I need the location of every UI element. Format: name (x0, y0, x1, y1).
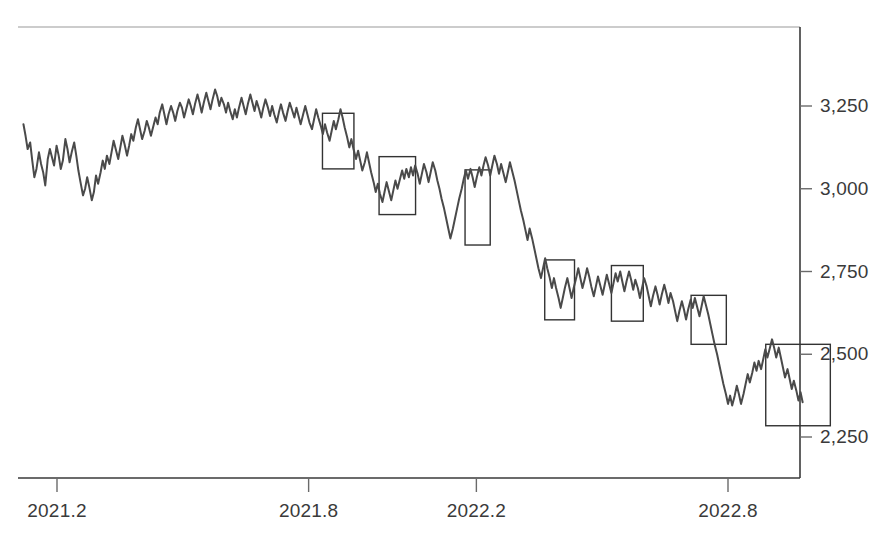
y-tick-label: 3,000 (820, 178, 869, 200)
axis-frame (18, 27, 800, 478)
y-tick-label: 2,500 (820, 343, 869, 365)
line-chart-plot (0, 0, 888, 556)
x-tick-label: 2022.8 (698, 500, 757, 522)
y-axis-ticks (800, 106, 812, 437)
annotation-box-3 (465, 170, 490, 245)
x-tick-label: 2022.2 (447, 500, 506, 522)
y-tick-label: 3,250 (820, 95, 869, 117)
chart-root: 2021.22021.82022.22022.8 2,2502,5002,750… (0, 0, 888, 556)
y-tick-label: 2,750 (820, 261, 869, 283)
x-tick-label: 2021.8 (279, 500, 338, 522)
y-tick-label: 2,250 (820, 426, 869, 448)
x-tick-label: 2021.2 (27, 500, 86, 522)
annotation-boxes (322, 113, 830, 425)
series-line-index (23, 89, 802, 405)
x-axis-ticks (57, 478, 728, 492)
